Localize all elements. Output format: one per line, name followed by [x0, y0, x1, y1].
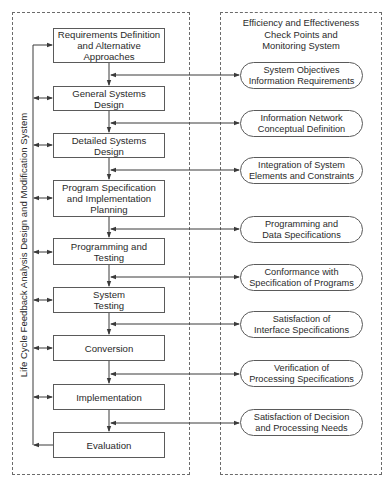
step-general-systems-design: General Systems Design — [53, 86, 165, 111]
step-program-specification: Program Specification and Implementation… — [53, 180, 165, 217]
step-system-testing: System Testing — [53, 287, 165, 313]
step-implementation: Implementation — [53, 384, 165, 410]
checkpoint-interface-specs: Satisfaction of Interface Specifications — [240, 311, 363, 338]
checkpoint-conformance: Conformance with Specification of Progra… — [240, 264, 363, 291]
checkpoint-information-network: Information Network Conceptual Definitio… — [240, 110, 363, 137]
checkpoint-integration: Integration of System Elements and Const… — [240, 157, 363, 184]
checkpoint-system-objectives: System Objectives Information Requiremen… — [240, 62, 363, 89]
checkpoint-programming-data-specs: Programming and Data Specifications — [240, 216, 363, 243]
checkpoint-decision-needs: Satisfaction of Decision and Processing … — [240, 409, 363, 436]
step-evaluation: Evaluation — [53, 432, 165, 458]
step-detailed-systems-design: Detailed Systems Design — [53, 133, 165, 158]
checkpoint-panel-title: Efficiency and Effectiveness Check Point… — [222, 17, 380, 52]
checkpoint-verification: Verification of Processing Specification… — [240, 360, 363, 387]
step-programming-and-testing: Programming and Testing — [53, 238, 165, 265]
step-requirements-definition: Requirements Definition and Alternative … — [53, 28, 165, 63]
step-conversion: Conversion — [53, 335, 165, 361]
